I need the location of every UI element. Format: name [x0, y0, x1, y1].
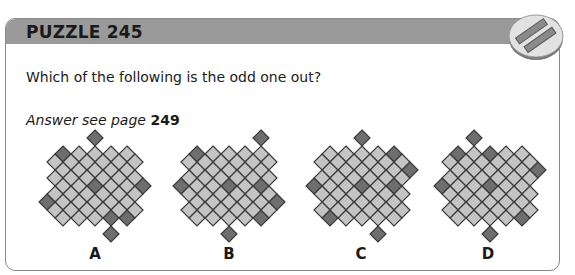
external-dark-cell: [253, 130, 269, 146]
option-label-c[interactable]: C: [351, 245, 371, 263]
option-label-b[interactable]: B: [219, 245, 239, 263]
external-dark-cell: [370, 226, 386, 242]
puzzle-figures: [0, 0, 575, 275]
external-dark-cell: [221, 226, 237, 242]
external-dark-cell: [482, 226, 498, 242]
external-dark-cell: [354, 130, 370, 146]
external-dark-cell: [103, 226, 119, 242]
option-label-a[interactable]: A: [85, 245, 105, 263]
option-label-d[interactable]: D: [478, 245, 498, 263]
external-dark-cell: [87, 130, 103, 146]
external-dark-cell: [466, 130, 482, 146]
